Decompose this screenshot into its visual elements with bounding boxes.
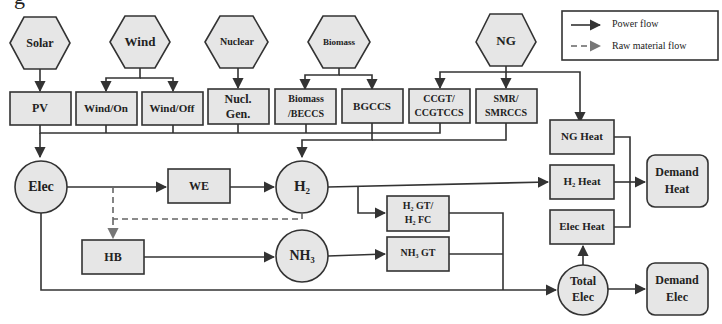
svg-text:Solar: Solar xyxy=(26,36,54,50)
svg-text:Gen.: Gen. xyxy=(226,107,250,121)
tech-haber-bosch: HB xyxy=(82,240,144,274)
svg-text:Elec: Elec xyxy=(28,179,54,194)
demand-elec: Demand Elec xyxy=(647,263,708,315)
tech-h2gt-h2fc: H₂ GT/ H₂ FC xyxy=(387,196,449,231)
svg-text:SMR/: SMR/ xyxy=(494,93,519,104)
svg-text:Elec Heat: Elec Heat xyxy=(559,220,605,232)
svg-text:H₂: H₂ xyxy=(294,178,311,194)
tech-elec-heat: Elec Heat xyxy=(550,210,614,244)
svg-text:Demand: Demand xyxy=(655,165,699,179)
svg-text:HB: HB xyxy=(104,250,121,264)
svg-text:Biomass: Biomass xyxy=(323,37,356,47)
svg-text:CCGT/: CCGT/ xyxy=(423,93,455,104)
svg-text:Nucl.: Nucl. xyxy=(225,92,252,106)
svg-text:PV: PV xyxy=(32,101,48,115)
tech-biomass-beccs: Biomass /BECCS xyxy=(275,89,336,124)
svg-text:CCGTCCS: CCGTCCS xyxy=(415,107,464,118)
svg-text:Elec: Elec xyxy=(666,290,689,304)
tech-ng-heat: NG Heat xyxy=(550,120,614,154)
svg-text:NG: NG xyxy=(496,33,516,48)
svg-text:H₂ FC: H₂ FC xyxy=(405,214,432,225)
svg-text:Biomass: Biomass xyxy=(288,93,324,104)
svg-text:NG Heat: NG Heat xyxy=(561,130,603,142)
tech-nuclear-generation: Nucl. Gen. xyxy=(208,89,269,124)
svg-text:BGCCS: BGCCS xyxy=(353,100,391,112)
svg-text:Wind: Wind xyxy=(125,34,157,49)
svg-text:NH₃ GT: NH₃ GT xyxy=(401,247,436,258)
source-nuclear: Nuclear xyxy=(205,16,268,68)
tech-pv: PV xyxy=(10,92,71,125)
svg-text:Total: Total xyxy=(570,274,597,288)
svg-text:Nuclear: Nuclear xyxy=(220,36,254,47)
carrier-nh3: NH₃ xyxy=(276,230,328,282)
carrier-h2: H₂ xyxy=(276,161,328,213)
source-biomass: Biomass xyxy=(308,16,370,68)
svg-text:Elec: Elec xyxy=(572,290,595,304)
tech-smr-smrccs: SMR/ SMRCCS xyxy=(476,89,537,123)
carrier-elec: Elec xyxy=(15,161,67,213)
tech-nh3gt: NH₃ GT xyxy=(387,237,449,271)
legend: Power flow Raw material flow xyxy=(562,11,718,60)
svg-text:/BECCS: /BECCS xyxy=(287,108,325,119)
tech-wind-offshore: Wind/Off xyxy=(142,92,203,125)
svg-text:Wind/Off: Wind/Off xyxy=(149,102,194,114)
tech-ccgt-ccgtccs: CCGT/ CCGTCCS xyxy=(409,89,470,123)
tech-h2-heat: H₂ Heat xyxy=(550,165,614,199)
source-wind: Wind xyxy=(110,16,170,68)
carrier-total-elec: Total Elec xyxy=(558,265,608,315)
svg-text:H₂ GT/: H₂ GT/ xyxy=(403,200,434,211)
svg-text:Demand: Demand xyxy=(655,273,699,287)
demand-heat: Demand Heat xyxy=(647,155,708,207)
svg-text:Heat: Heat xyxy=(665,182,690,196)
source-solar: Solar xyxy=(10,17,70,69)
source-ng: NG xyxy=(476,14,536,66)
tech-wind-onshore: Wind/On xyxy=(76,92,137,125)
svg-text:H₂ Heat: H₂ Heat xyxy=(563,175,601,187)
cropped-title-fragment: g xyxy=(14,0,25,9)
svg-text:WE: WE xyxy=(189,179,209,193)
svg-text:Wind/On: Wind/On xyxy=(84,102,128,114)
svg-text:SMRCCS: SMRCCS xyxy=(485,107,528,118)
tech-water-electrolysis: WE xyxy=(168,169,230,203)
legend-raw-material-flow: Raw material flow xyxy=(612,40,687,51)
svg-text:NH₃: NH₃ xyxy=(289,248,314,263)
tech-bgccs: BGCCS xyxy=(342,89,403,123)
energy-system-diagram: g Power flow Raw material flow Solar Win… xyxy=(0,0,722,324)
legend-power-flow: Power flow xyxy=(612,18,659,29)
